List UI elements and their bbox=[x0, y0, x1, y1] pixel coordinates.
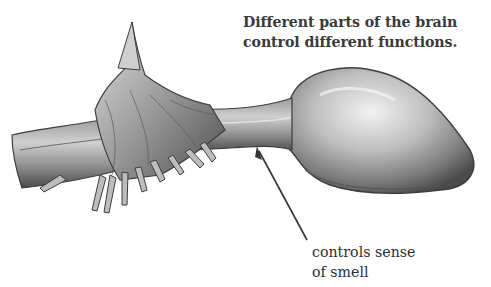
diagram: Different parts of the brain control dif… bbox=[0, 0, 491, 287]
caption: Different parts of the brain control dif… bbox=[243, 12, 457, 52]
caption-line-2: control different functions. bbox=[243, 32, 457, 52]
nerve-roots bbox=[40, 22, 225, 213]
label-line-1: controls sense bbox=[312, 242, 415, 262]
olfactory-bulb bbox=[286, 68, 473, 193]
caption-line-1: Different parts of the brain bbox=[243, 12, 457, 32]
olfactory-label: controls sense of smell bbox=[312, 242, 415, 282]
label-line-2: of smell bbox=[312, 262, 415, 282]
